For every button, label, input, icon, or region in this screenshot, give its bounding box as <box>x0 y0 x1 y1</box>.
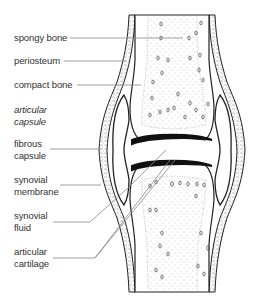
label-text: articular <box>14 246 49 258</box>
label-articular-cartilage: articular cartilage <box>14 246 49 269</box>
label-text: articular <box>14 104 47 116</box>
label-synovial-membrane: synovial membrane <box>14 174 59 197</box>
label-text: capsule <box>14 150 46 162</box>
label-text: fluid <box>14 222 48 234</box>
synovial-membrane-right <box>215 95 231 205</box>
label-text: capsule <box>14 116 47 128</box>
label-text: compact bone <box>14 79 72 90</box>
label-fibrous-capsule: fibrous capsule <box>14 138 46 161</box>
synovial-membrane-left <box>113 95 129 205</box>
label-text: membrane <box>14 186 59 198</box>
periosteum-left <box>99 15 135 292</box>
label-compact-bone: compact bone <box>14 79 72 91</box>
label-articular-capsule: articular capsule <box>14 104 47 127</box>
label-synovial-fluid: synovial fluid <box>14 210 48 233</box>
label-text: synovial <box>14 210 48 222</box>
lower-spongy-bone <box>142 176 206 292</box>
label-text: fibrous <box>14 138 46 150</box>
label-periosteum: periosteum <box>14 55 60 67</box>
label-text: cartilage <box>14 258 49 270</box>
upper-articular-cartilage <box>132 135 212 144</box>
periosteum-right <box>209 15 245 292</box>
synovial-joint-diagram: spongy bone periosteum compact bone arti… <box>0 0 272 306</box>
label-text: periosteum <box>14 55 60 66</box>
label-text: synovial <box>14 174 59 186</box>
label-text: spongy bone <box>14 32 67 43</box>
label-spongy-bone: spongy bone <box>14 32 67 44</box>
